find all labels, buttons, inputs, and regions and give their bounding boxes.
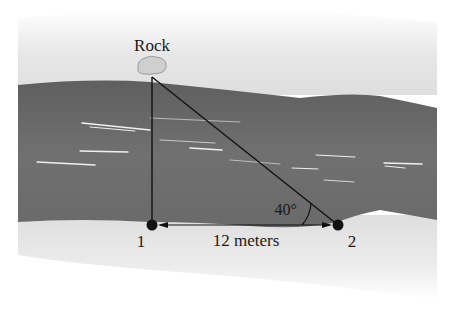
point-2-marker: [333, 220, 344, 231]
point-2-label: 2: [348, 232, 357, 251]
river-triangle-diagram: Rock 40° 1 2 12 meters: [0, 0, 460, 325]
rock-icon: [138, 56, 166, 74]
rock-label: Rock: [134, 36, 170, 55]
point-1-marker: [147, 220, 158, 231]
angle-label: 40°: [275, 201, 297, 218]
point-1-label: 1: [137, 232, 146, 251]
river: [18, 81, 437, 228]
bottom-bank: [18, 215, 437, 300]
distance-label: 12 meters: [213, 231, 280, 250]
